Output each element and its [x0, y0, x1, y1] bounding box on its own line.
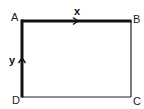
vertex-label-C: C: [133, 95, 141, 107]
edge-label-x: x: [74, 5, 81, 17]
vertex-label-D: D: [12, 94, 20, 106]
vertex-label-A: A: [11, 11, 19, 23]
rectangle-path-diagram: A B C D x y: [0, 0, 144, 109]
edge-label-y: y: [9, 54, 16, 66]
vertex-label-B: B: [133, 13, 140, 25]
